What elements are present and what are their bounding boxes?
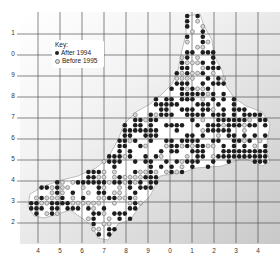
record-dot-before-1995 (201, 97, 205, 101)
record-dot-after-1994 (232, 144, 237, 149)
record-dot-before-1995 (196, 87, 200, 91)
record-dot-after-1994 (149, 128, 154, 133)
record-dot-after-1994 (211, 123, 216, 128)
record-dot-before-1995 (185, 61, 189, 65)
record-dot-before-1995 (211, 108, 215, 112)
record-dot-before-1995 (185, 87, 189, 91)
distribution-map: 1098765432 45678901234 Key: After 1994 B… (0, 0, 280, 259)
record-dot-before-1995 (206, 144, 210, 148)
record-dot-after-1994 (201, 154, 206, 159)
record-dot-after-1994 (190, 139, 195, 144)
record-dot-after-1994 (117, 139, 122, 144)
record-dot-after-1994 (128, 154, 133, 159)
record-dot-after-1994 (216, 113, 221, 118)
record-dot-after-1994 (211, 139, 216, 144)
record-dot-after-1994 (154, 102, 159, 107)
record-dot-before-1995 (196, 71, 200, 75)
record-dot-before-1995 (45, 201, 49, 205)
record-dot-before-1995 (190, 61, 194, 65)
record-dot-before-1995 (206, 92, 210, 96)
record-dot-after-1994 (128, 196, 133, 201)
record-dot-before-1995 (196, 56, 200, 60)
record-dot-before-1995 (112, 191, 116, 195)
record-dot-after-1994 (211, 113, 216, 118)
record-dot-before-1995 (50, 196, 54, 200)
record-dot-after-1994 (175, 128, 180, 133)
record-dot-after-1994 (102, 180, 107, 185)
record-dot-after-1994 (232, 97, 237, 102)
record-dot-after-1994 (195, 139, 200, 144)
record-dot-after-1994 (201, 81, 206, 86)
record-dot-before-1995 (107, 217, 111, 221)
record-dot-after-1994 (143, 175, 148, 180)
record-dot-before-1995 (253, 144, 257, 148)
record-dot-after-1994 (258, 154, 263, 159)
record-dot-after-1994 (60, 201, 65, 206)
record-dot-after-1994 (117, 217, 122, 222)
record-dot-after-1994 (164, 113, 169, 118)
record-dot-after-1994 (65, 206, 70, 211)
record-dot-after-1994 (133, 206, 138, 211)
record-dot-after-1994 (175, 71, 180, 76)
record-dot-before-1995 (107, 180, 111, 184)
record-dot-after-1994 (258, 149, 263, 154)
record-dot-before-1995 (242, 123, 246, 127)
record-dot-after-1994 (190, 107, 195, 112)
record-dot-after-1994 (71, 191, 76, 196)
y-axis-label: 4 (9, 175, 17, 184)
record-dot-before-1995 (190, 76, 194, 80)
record-dot-before-1995 (50, 191, 54, 195)
record-dot-after-1994 (164, 97, 169, 102)
record-dot-after-1994 (237, 139, 242, 144)
record-dot-after-1994 (50, 211, 55, 216)
record-dot-after-1994 (190, 97, 195, 102)
record-dot-after-1994 (195, 14, 200, 19)
record-dot-after-1994 (211, 81, 216, 86)
record-dot-after-1994 (138, 118, 143, 123)
record-dot-after-1994 (175, 123, 180, 128)
record-dot-after-1994 (185, 55, 190, 60)
record-dot-after-1994 (190, 87, 195, 92)
record-dot-after-1994 (107, 232, 112, 237)
record-dot-after-1994 (221, 128, 226, 133)
key-title: Key: (55, 41, 101, 49)
record-dot-before-1995 (222, 123, 226, 127)
record-dot-after-1994 (143, 159, 148, 164)
record-dot-after-1994 (180, 61, 185, 66)
record-dot-after-1994 (97, 185, 102, 190)
record-dot-after-1994 (211, 97, 216, 102)
record-dot-before-1995 (196, 61, 200, 65)
record-dot-after-1994 (201, 71, 206, 76)
record-dot-after-1994 (237, 154, 242, 159)
record-dot-after-1994 (138, 128, 143, 133)
record-dot-after-1994 (221, 97, 226, 102)
record-dot-after-1994 (211, 128, 216, 133)
record-dot-after-1994 (154, 133, 159, 138)
record-dot-after-1994 (206, 66, 211, 71)
record-dot-after-1994 (201, 29, 206, 34)
record-dot-after-1994 (253, 133, 258, 138)
record-dot-before-1995 (97, 175, 101, 179)
record-dot-after-1994 (123, 211, 128, 216)
record-dot-before-1995 (201, 66, 205, 70)
record-dot-after-1994 (242, 118, 247, 123)
record-dot-before-1995 (71, 180, 75, 184)
record-dot-after-1994 (227, 133, 232, 138)
record-dot-before-1995 (133, 180, 137, 184)
record-dot-before-1995 (60, 191, 64, 195)
record-dot-after-1994 (232, 123, 237, 128)
record-dot-after-1994 (55, 191, 60, 196)
record-dot-after-1994 (185, 14, 190, 19)
record-dot-after-1994 (34, 201, 39, 206)
record-dot-before-1995 (123, 180, 127, 184)
record-dot-after-1994 (107, 227, 112, 232)
y-axis-label: 1 (9, 28, 17, 37)
record-dot-after-1994 (169, 87, 174, 92)
record-dot-after-1994 (39, 196, 44, 201)
record-dot-after-1994 (195, 159, 200, 164)
record-dot-after-1994 (206, 87, 211, 92)
record-dot-before-1995 (201, 87, 205, 91)
record-dot-after-1994 (86, 206, 91, 211)
record-dot-before-1995 (175, 76, 179, 80)
record-dot-after-1994 (253, 154, 258, 159)
